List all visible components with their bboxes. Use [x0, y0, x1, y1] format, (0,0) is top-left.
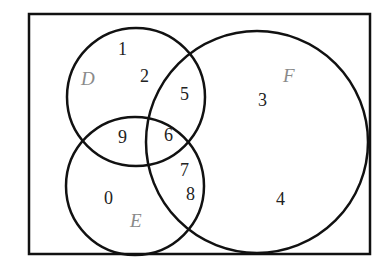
element-6: 6	[164, 125, 173, 145]
venn-diagram: D E F 1 2 5 3 9 6 7 8 0 4	[0, 0, 387, 269]
element-9: 9	[118, 127, 127, 147]
element-0: 0	[104, 188, 113, 208]
element-3: 3	[258, 90, 267, 110]
set-label-d: D	[80, 68, 95, 89]
circle-f	[146, 31, 368, 253]
set-label-f: F	[282, 65, 295, 86]
element-4: 4	[276, 189, 285, 209]
circle-e	[66, 117, 204, 255]
element-5: 5	[180, 84, 189, 104]
element-8: 8	[186, 184, 195, 204]
element-7: 7	[180, 160, 189, 180]
element-1: 1	[118, 39, 127, 59]
set-label-e: E	[129, 210, 142, 231]
element-2: 2	[140, 66, 149, 86]
